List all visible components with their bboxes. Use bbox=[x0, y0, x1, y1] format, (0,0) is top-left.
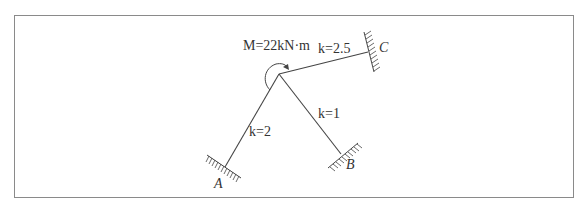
support-A-label: A bbox=[213, 176, 223, 191]
fixed-support-A bbox=[206, 155, 241, 182]
member-C-stiffness-label: k=2.5 bbox=[318, 41, 350, 56]
moment-label: M=22kN·m bbox=[243, 38, 310, 53]
member-A bbox=[225, 74, 279, 167]
support-C-label: C bbox=[379, 40, 389, 55]
fixed-support-C bbox=[364, 31, 380, 72]
member-B-stiffness-label: k=1 bbox=[318, 106, 340, 121]
diagram-canvas: M=22kN·m k=2.5 k=1 k=2 A B C bbox=[0, 0, 583, 209]
fixed-support-B bbox=[328, 143, 362, 171]
frame-diagram: M=22kN·m k=2.5 k=1 k=2 A B C bbox=[0, 0, 583, 209]
support-B-label: B bbox=[346, 157, 355, 172]
member-A-stiffness-label: k=2 bbox=[249, 124, 271, 139]
